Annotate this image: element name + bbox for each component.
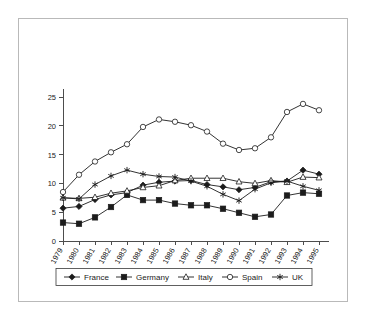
- data-point-marker[interactable]: [156, 197, 161, 202]
- x-tick-label: 1981: [81, 247, 97, 266]
- data-point-marker[interactable]: [236, 187, 242, 193]
- x-tick-label: 1979: [49, 247, 65, 266]
- data-point-marker[interactable]: [76, 221, 81, 226]
- data-point-marker[interactable]: [227, 274, 232, 279]
- data-point-marker[interactable]: [188, 203, 193, 208]
- x-tick-label: 1986: [161, 247, 177, 266]
- data-point-marker[interactable]: [284, 109, 289, 114]
- x-tick-label: 1994: [289, 247, 305, 266]
- data-point-marker[interactable]: [252, 146, 257, 151]
- data-point-marker[interactable]: [188, 123, 193, 128]
- data-point-marker[interactable]: [284, 193, 289, 198]
- data-point-marker[interactable]: [108, 150, 113, 155]
- data-point-marker[interactable]: [204, 203, 209, 208]
- y-tick-label: 20: [48, 122, 56, 131]
- x-tick-label: 1989: [209, 247, 225, 266]
- data-point-marker[interactable]: [156, 117, 161, 122]
- y-tick-label: 10: [48, 179, 56, 188]
- x-tick-label: 1980: [65, 247, 81, 266]
- data-point-marker[interactable]: [60, 189, 65, 194]
- series-germany[interactable]: [60, 190, 321, 227]
- data-point-marker[interactable]: [60, 205, 66, 211]
- legend-label: Italy: [198, 273, 213, 282]
- data-point-marker[interactable]: [108, 204, 113, 209]
- data-point-marker[interactable]: [172, 201, 177, 206]
- x-tick-label: 1988: [193, 247, 209, 266]
- data-point-marker[interactable]: [108, 173, 114, 179]
- data-point-marker[interactable]: [124, 167, 130, 173]
- data-point-marker[interactable]: [236, 147, 241, 152]
- legend-label: UK: [292, 273, 304, 282]
- data-point-marker[interactable]: [236, 197, 242, 203]
- x-tick-label: 1987: [177, 247, 193, 266]
- data-point-marker[interactable]: [252, 214, 257, 219]
- data-point-marker[interactable]: [300, 190, 305, 195]
- data-point-marker[interactable]: [76, 203, 82, 209]
- x-tick-label: 1992: [257, 247, 273, 266]
- y-tick-label: 25: [48, 93, 56, 102]
- data-point-marker[interactable]: [121, 274, 126, 279]
- x-axis: 1979198019811982198319841985198619871988…: [49, 241, 329, 265]
- x-tick-label: 1995: [305, 247, 321, 266]
- x-tick-label: 1984: [129, 247, 145, 266]
- data-point-marker[interactable]: [60, 220, 65, 225]
- data-point-marker[interactable]: [92, 215, 97, 220]
- legend-label: Spain: [242, 273, 262, 282]
- data-point-marker[interactable]: [300, 183, 306, 189]
- chart-frame: 0510152025 19791980198119821983198419851…: [18, 18, 348, 302]
- data-point-marker[interactable]: [300, 174, 306, 180]
- x-tick-label: 1991: [241, 247, 257, 266]
- data-point-marker[interactable]: [300, 101, 305, 106]
- x-tick-label: 1985: [145, 247, 161, 266]
- data-point-marker[interactable]: [220, 184, 226, 190]
- x-tick-label: 1982: [97, 247, 113, 266]
- data-point-marker[interactable]: [140, 124, 145, 129]
- chart-figure: 0510152025 19791980198119821983198419851…: [0, 0, 366, 320]
- x-tick-label: 1983: [113, 247, 129, 266]
- y-tick-label: 15: [48, 151, 56, 160]
- data-point-marker[interactable]: [236, 210, 241, 215]
- data-point-marker[interactable]: [172, 119, 177, 124]
- data-series-group[interactable]: [60, 101, 322, 226]
- data-point-marker[interactable]: [268, 212, 273, 217]
- chart-legend[interactable]: FranceGermanyItalySpainUK: [56, 269, 312, 286]
- data-point-marker[interactable]: [300, 167, 306, 173]
- data-point-marker[interactable]: [124, 142, 129, 147]
- legend-label: France: [84, 273, 109, 282]
- legend-label: Germany: [136, 273, 169, 282]
- data-point-marker[interactable]: [140, 197, 145, 202]
- data-point-marker[interactable]: [220, 141, 225, 146]
- data-point-marker[interactable]: [76, 172, 81, 177]
- x-tick-label: 1990: [225, 247, 241, 266]
- line-chart-canvas[interactable]: 0510152025 19791980198119821983198419851…: [19, 19, 349, 303]
- x-tick-label: 1993: [273, 247, 289, 266]
- y-tick-label: 0: [52, 237, 56, 246]
- data-point-marker[interactable]: [316, 108, 321, 113]
- data-point-marker[interactable]: [220, 191, 226, 197]
- y-tick-label: 5: [52, 208, 56, 217]
- data-point-marker[interactable]: [92, 159, 97, 164]
- data-point-marker[interactable]: [220, 206, 225, 211]
- data-point-marker[interactable]: [268, 135, 273, 140]
- data-point-marker[interactable]: [204, 129, 209, 134]
- series-italy[interactable]: [60, 174, 322, 201]
